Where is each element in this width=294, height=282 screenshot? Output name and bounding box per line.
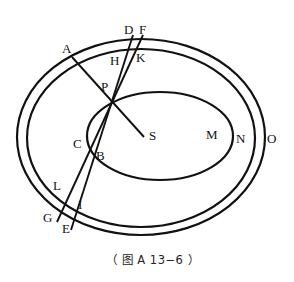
orbit-diagram: A D F H K P S M N O C B L I G E （ 图 A 13… [0, 0, 294, 282]
label-a: A [62, 41, 72, 56]
label-m: M [206, 127, 218, 142]
line-a-s [72, 57, 144, 137]
label-b: B [96, 148, 105, 163]
label-f: F [139, 22, 146, 37]
label-s: S [149, 128, 156, 143]
label-p: P [101, 79, 108, 94]
line-f-g [57, 35, 143, 222]
label-e: E [62, 221, 70, 236]
label-c: C [73, 136, 82, 151]
figure-caption: （ 图 A 13−6 ） [106, 253, 199, 267]
label-o: O [267, 131, 276, 146]
label-l: L [53, 178, 61, 193]
label-k: K [136, 50, 146, 65]
label-i: I [78, 197, 82, 212]
outer-orbit-o [17, 39, 265, 235]
label-d: D [124, 22, 133, 37]
middle-orbit-n [27, 49, 255, 227]
label-n: N [236, 131, 246, 146]
label-g: G [43, 210, 52, 225]
label-h: H [110, 53, 119, 68]
